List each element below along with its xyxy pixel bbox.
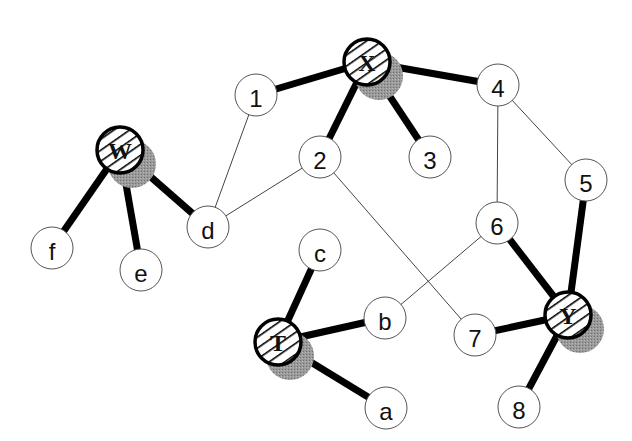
- hub-node-y[interactable]: Y: [545, 292, 591, 338]
- node-label: e: [134, 260, 147, 287]
- node-label: c: [314, 240, 326, 267]
- node-8[interactable]: 8: [498, 386, 540, 428]
- hub-label: W: [108, 138, 132, 164]
- node-a[interactable]: a: [365, 387, 407, 429]
- node-label: 2: [313, 147, 326, 174]
- node-f[interactable]: f: [31, 227, 73, 269]
- node-4[interactable]: 4: [477, 64, 519, 106]
- hub-label: Y: [559, 303, 576, 329]
- graph-diagram: 12345678dfecba WXTY: [0, 0, 632, 441]
- hub-shadows: [108, 52, 604, 380]
- node-e[interactable]: e: [120, 249, 162, 291]
- node-label: b: [378, 308, 391, 335]
- node-label: 4: [491, 75, 504, 102]
- node-label: f: [49, 238, 56, 265]
- hub-label: T: [270, 330, 286, 356]
- hub-label: X: [358, 50, 376, 76]
- node-label: 3: [423, 147, 436, 174]
- node-label: 6: [490, 213, 503, 240]
- node-3[interactable]: 3: [409, 136, 451, 178]
- node-1[interactable]: 1: [235, 74, 277, 116]
- node-label: a: [379, 398, 393, 425]
- nodes: 12345678dfecba: [31, 64, 607, 429]
- hub-node-t[interactable]: T: [255, 319, 301, 365]
- thin-edges: [208, 85, 586, 335]
- node-5[interactable]: 5: [565, 159, 607, 201]
- node-6[interactable]: 6: [476, 202, 518, 244]
- node-2[interactable]: 2: [299, 136, 341, 178]
- node-label: d: [201, 217, 214, 244]
- node-label: 1: [249, 85, 262, 112]
- node-d[interactable]: d: [187, 206, 229, 248]
- hub-node-w[interactable]: W: [97, 127, 143, 173]
- node-b[interactable]: b: [364, 297, 406, 339]
- node-label: 5: [579, 170, 592, 197]
- node-label: 8: [512, 397, 525, 424]
- node-7[interactable]: 7: [454, 314, 496, 356]
- node-label: 7: [468, 325, 481, 352]
- thin-edge-6-b: [385, 223, 497, 318]
- hub-node-x[interactable]: X: [344, 39, 390, 85]
- node-c[interactable]: c: [299, 229, 341, 271]
